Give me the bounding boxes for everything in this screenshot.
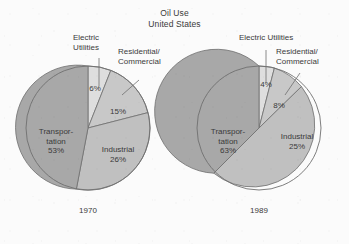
callout-1989-electric-utilities: Electric Utilities <box>239 33 293 43</box>
figure-canvas: Oil Use United States <box>0 0 349 244</box>
year-label-1970: 1970 <box>62 206 114 216</box>
value-1970-transportation: 53% <box>28 146 84 156</box>
value-1989-industrial: 25% <box>273 142 321 152</box>
label-1970-transportation: Transpor- tation 53% <box>28 127 84 156</box>
year-label-1989: 1989 <box>233 206 285 216</box>
pie-charts-svg <box>0 0 349 244</box>
value-1989-residential-commercial: 8% <box>267 101 291 111</box>
callout-1970-residential-commercial: Residential/ Commercial <box>118 47 161 66</box>
callout-1970-electric-utilities: Electric Utilities <box>60 33 112 52</box>
pie-1989 <box>155 49 321 190</box>
label-1989-transportation: Transpor- tation 63% <box>200 127 256 156</box>
callout-1989-residential-commercial: Residential/ Commercial <box>276 47 319 66</box>
label-1970-industrial: Industrial 26% <box>94 145 142 164</box>
callout-1989-residential-commercial-line1: Residential/ <box>276 47 319 57</box>
label-1970-transportation-line2: tation <box>28 137 84 147</box>
callout-1989-residential-commercial-line2: Commercial <box>276 57 319 67</box>
label-1970-transportation-line1: Transpor- <box>28 127 84 137</box>
label-1989-industrial-name: Industrial <box>273 132 321 142</box>
callout-1970-electric-utilities-line1: Electric <box>60 33 112 43</box>
value-1989-transportation: 63% <box>200 146 256 156</box>
value-1970-industrial: 26% <box>94 155 142 165</box>
callout-1970-residential-commercial-line1: Residential/ <box>118 47 161 57</box>
value-1970-electric-utilities: 6% <box>84 84 106 94</box>
label-1989-transportation-line2: tation <box>200 137 256 147</box>
label-1989-industrial: Industrial 25% <box>273 132 321 151</box>
value-1970-residential-commercial: 15% <box>105 107 131 117</box>
value-1989-electric-utilities: 4% <box>255 80 277 90</box>
label-1970-industrial-name: Industrial <box>94 145 142 155</box>
pie-1970 <box>16 58 150 190</box>
callout-1970-residential-commercial-line2: Commercial <box>118 57 161 67</box>
callout-1970-electric-utilities-line2: Utilities <box>60 43 112 53</box>
label-1989-transportation-line1: Transpor- <box>200 127 256 137</box>
